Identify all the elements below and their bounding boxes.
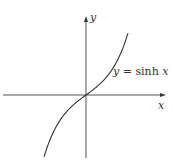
curve-label: y = sinh x <box>113 66 168 77</box>
sinh-plot <box>0 0 174 168</box>
x-axis-label: x <box>158 100 164 111</box>
x-axis-arrow-icon <box>160 93 166 97</box>
curve-label-eq: = sinh <box>119 65 162 78</box>
y-axis-arrow-icon <box>84 16 88 22</box>
curve-label-x: x <box>162 65 168 78</box>
y-axis-label: y <box>90 12 96 23</box>
